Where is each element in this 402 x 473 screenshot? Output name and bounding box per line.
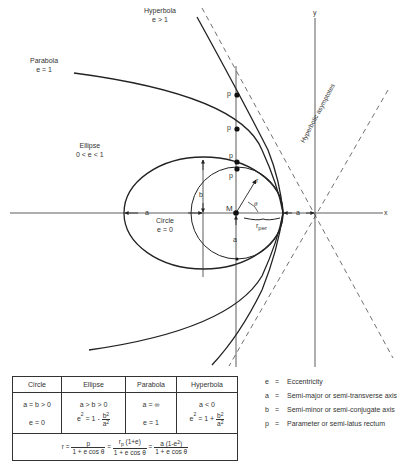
semi-minor-label: b	[199, 190, 203, 199]
asymptote-1	[202, 8, 393, 358]
x-axis-label: x	[384, 208, 388, 217]
legend-item: p=Parameter or semi-latus rectum	[265, 419, 402, 429]
conic-properties-table: Circle Ellipse Parabola Hyperbola a = b …	[12, 376, 238, 461]
circle-bottom-point	[236, 258, 239, 261]
ellipse-label: Ellipse0 < e < 1	[76, 141, 104, 159]
cell-parabola: a = ∞ e = 1	[126, 393, 177, 434]
y-axis-label: y	[313, 8, 317, 17]
header-parabola: Parabola	[126, 377, 177, 393]
circle-radius-label: a	[233, 235, 237, 244]
focus-label: M	[226, 204, 233, 213]
r-per-brace	[244, 218, 280, 220]
r-per-label: rper	[256, 221, 267, 233]
header-ellipse: Ellipse	[62, 377, 126, 393]
cell-circle: a = b > 0 e = 0	[13, 393, 62, 434]
p-point-hyperbola	[234, 92, 239, 97]
semi-major-left-label: a	[145, 208, 149, 217]
legend-item: e=Eccentricity	[265, 377, 402, 387]
header-hyperbola: Hyperbola	[177, 377, 238, 393]
orbit-equation: r = p1 + e cos θ = rp (1+e)1 + e cos θ =…	[13, 434, 238, 461]
radius-label: r	[256, 176, 258, 185]
theta-label: θ	[254, 200, 257, 209]
p-label-circle: p	[229, 171, 233, 180]
p-label-hyperbola: p	[227, 89, 231, 98]
p-point-ellipse	[234, 159, 239, 164]
circle-label: Circlee = 0	[156, 216, 174, 234]
hyperbola-label: Hyperbolae > 1	[144, 6, 176, 24]
cell-hyperbola: a < 0 e2 = 1 + b2a2	[177, 393, 238, 434]
legend-item: b=Semi-minor or semi-conjugate axis	[265, 405, 402, 415]
cell-ellipse: a > b > 0 e2 = 1 - b2a2	[62, 393, 126, 434]
p-point-parabola	[234, 126, 239, 131]
legend-item: a=Semi-major or semi-transverse axis	[265, 391, 402, 401]
focus-point	[233, 210, 239, 216]
hyperbola-curve	[197, 17, 283, 365]
conic-sections-diagram	[0, 0, 402, 370]
p-label-ellipse: p	[229, 151, 233, 160]
semi-major-right-label: a	[296, 208, 300, 217]
p-point-circle	[234, 166, 239, 171]
header-circle: Circle	[13, 377, 62, 393]
radius-vector	[236, 180, 256, 213]
p-label-parabola: p	[227, 123, 231, 132]
parabola-label: Parabolae = 1	[30, 56, 58, 74]
symbol-legend: e=Eccentricity a=Semi-major or semi-tran…	[265, 377, 402, 433]
